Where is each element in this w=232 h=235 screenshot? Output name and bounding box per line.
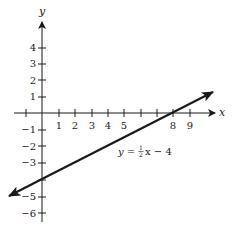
equation-suffix: x − 4: [145, 146, 172, 157]
x-axis-label: x: [219, 106, 226, 119]
y-tick-label-3: 3: [30, 58, 36, 69]
x-tick-label-2: 2: [72, 120, 78, 131]
plotted-line: [42, 92, 213, 179]
x-tick-label-3: 3: [89, 120, 95, 131]
y-tick-label-neg2: −2: [21, 141, 36, 152]
x-tick-label-8: 8: [170, 120, 176, 131]
y-tick-label-2: 2: [30, 75, 36, 86]
y-tick-label-neg1: −1: [21, 124, 36, 135]
equation-fraction-numerator: 1: [139, 144, 143, 151]
y-axis-label: y: [38, 5, 46, 18]
x-axis: 1 2 3 4 5 8 9 x: [14, 106, 226, 131]
x-tick-label-1: 1: [56, 120, 62, 131]
coordinate-plane: 1 2 3 4 5 8 9 x 4 3 2 1 −1 −2 −3 −5 −6: [0, 0, 232, 235]
equation-prefix: y =: [117, 146, 135, 157]
y-tick-label-neg6: −6: [21, 208, 36, 219]
x-tick-label-5: 5: [121, 120, 127, 131]
y-tick-label-neg3: −3: [21, 157, 36, 168]
x-tick-label-4: 4: [105, 120, 111, 131]
y-tick-label-4: 4: [30, 42, 36, 53]
y-tick-label-neg5: −5: [21, 191, 36, 202]
line-series: [9, 92, 213, 196]
equation-fraction-denominator: 2: [139, 151, 143, 158]
equation-label: y = 1 2 x − 4: [117, 144, 172, 158]
x-tick-label-9: 9: [187, 120, 193, 131]
y-tick-label-1: 1: [30, 91, 36, 102]
